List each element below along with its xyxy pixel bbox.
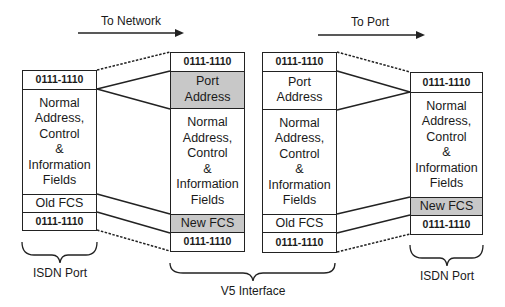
normal-fields: Normal Address, Control & Information Fi…: [410, 92, 483, 199]
closing-flag-field: 0111-1110: [170, 232, 245, 252]
normal-fields-line: Address,: [35, 111, 84, 127]
arrow-to-network: [78, 29, 184, 37]
normal-fields-line: Address,: [422, 114, 471, 130]
normal-fields-line: Control: [187, 146, 227, 162]
normal-fields: Normal Address, Control & Information Fi…: [170, 108, 245, 215]
old-fcs-field: Old FCS: [262, 214, 337, 234]
brace-label-isdn-port-left: ISDN Port: [20, 266, 100, 280]
closing-flag-field: 0111-1110: [262, 232, 337, 253]
normal-fields: Normal Address, Control & Information Fi…: [262, 109, 337, 215]
normal-fields-line: Normal: [426, 99, 466, 115]
normal-fields-line: Address,: [183, 131, 232, 147]
normal-fields-line: Normal: [279, 116, 319, 132]
normal-fields-line: &: [55, 142, 63, 158]
opening-flag-field: 0111-1110: [22, 70, 97, 90]
compression-lines-to-port: [337, 52, 410, 252]
brace-label-isdn-port-right: ISDN Port: [407, 269, 487, 283]
normal-fields-line: Fields: [43, 173, 76, 189]
normal-fields-line: Address,: [275, 131, 324, 147]
arrow-to-port: [318, 31, 425, 39]
normal-fields-line: &: [203, 162, 211, 178]
old-fcs-field: Old FCS: [22, 194, 97, 214]
normal-fields-line: Fields: [430, 176, 463, 192]
brace-v5-interface: [170, 263, 335, 281]
normal-fields-line: &: [295, 162, 303, 178]
normal-fields-line: Control: [279, 147, 319, 163]
opening-flag-field: 0111-1110: [170, 52, 245, 72]
brace-label-v5-interface: V5 Interface: [208, 284, 298, 298]
port-address-line: Port: [288, 75, 311, 91]
new-fcs-field: New FCS: [410, 197, 483, 217]
frame-v5-to-network: 0111-1110 Port Address Normal Address, C…: [170, 52, 245, 252]
opening-flag-field: 0111-1110: [410, 72, 483, 93]
normal-fields-line: Fields: [191, 193, 224, 209]
new-fcs-field: New FCS: [170, 214, 245, 234]
normal-fields-line: &: [442, 145, 450, 161]
normal-fields-line: Information: [268, 178, 331, 194]
frame-isdn-port-outbound: 0111-1110 Normal Address, Control & Info…: [410, 72, 483, 235]
normal-fields-line: Fields: [283, 193, 316, 209]
brace-isdn-port-right: [410, 245, 483, 266]
normal-fields-line: Information: [176, 177, 239, 193]
port-address-field: Port Address: [170, 71, 245, 110]
normal-fields-line: Control: [426, 130, 466, 146]
opening-flag-field: 0111-1110: [262, 52, 337, 72]
normal-fields-line: Normal: [39, 96, 79, 112]
expansion-lines-to-network: [97, 52, 170, 251]
normal-fields-line: Information: [28, 158, 91, 174]
frame-v5-to-port: 0111-1110 Port Address Normal Address, C…: [262, 52, 337, 253]
closing-flag-field: 0111-1110: [410, 215, 483, 235]
normal-fields-line: Control: [39, 127, 79, 143]
normal-fields-line: Normal: [187, 115, 227, 131]
port-address-line: Address: [277, 90, 323, 106]
normal-fields-line: Information: [415, 161, 478, 177]
closing-flag-field: 0111-1110: [22, 212, 97, 231]
brace-isdn-port-left: [22, 242, 97, 263]
direction-label-to-port: To Port: [335, 15, 405, 29]
port-address-line: Port: [196, 74, 219, 90]
port-address-line: Address: [185, 90, 231, 106]
port-address-field: Port Address: [262, 71, 337, 111]
normal-fields: Normal Address, Control & Information Fi…: [22, 89, 97, 196]
frame-isdn-port-inbound: 0111-1110 Normal Address, Control & Info…: [22, 70, 97, 231]
direction-label-to-network: To Network: [96, 14, 166, 28]
